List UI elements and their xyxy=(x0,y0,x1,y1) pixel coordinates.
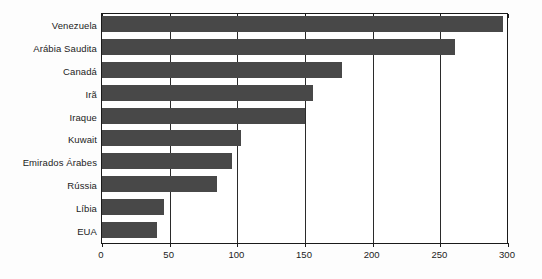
value-axis-labels: 050100150200250300 xyxy=(0,249,542,265)
bar xyxy=(102,222,157,238)
bar xyxy=(102,153,232,169)
category-label: Iraque xyxy=(69,112,97,123)
bar-row xyxy=(102,220,508,243)
bar-row xyxy=(102,83,508,106)
category-label: Canadá xyxy=(63,66,97,77)
category-label-row: Emirados Árabes xyxy=(0,151,97,174)
bar xyxy=(102,108,305,124)
bars-container xyxy=(102,14,508,243)
category-label: Emirados Árabes xyxy=(23,157,97,168)
bar-row xyxy=(102,60,508,83)
value-axis-tick-label: 300 xyxy=(499,249,515,260)
axis-tick-top xyxy=(508,14,509,18)
value-axis-tick-label: 200 xyxy=(364,249,380,260)
axis-tick-bottom xyxy=(305,243,306,247)
category-axis-labels: VenezuelaArábia SauditaCanadáIrãIraqueKu… xyxy=(0,14,97,243)
category-label: Arábia Saudita xyxy=(33,43,97,54)
value-axis-tick-label: 250 xyxy=(431,249,447,260)
category-label: Irã xyxy=(86,89,97,100)
category-label-row: Iraque xyxy=(0,106,97,129)
bar xyxy=(102,62,342,78)
axis-tick-bottom xyxy=(508,243,509,247)
bar xyxy=(102,39,455,55)
axis-tick-bottom xyxy=(440,243,441,247)
axis-tick-bottom xyxy=(237,243,238,247)
bar-row xyxy=(102,197,508,220)
category-label-row: Arábia Saudita xyxy=(0,37,97,60)
bar xyxy=(102,16,503,32)
value-axis-tick-label: 150 xyxy=(296,249,312,260)
category-label-row: Líbia xyxy=(0,197,97,220)
value-axis-tick-label: 100 xyxy=(228,249,244,260)
value-axis-tick-label: 50 xyxy=(163,249,174,260)
category-label-row: Kuwait xyxy=(0,128,97,151)
axis-tick-bottom xyxy=(170,243,171,247)
category-label-row: Irã xyxy=(0,83,97,106)
bar-chart: VenezuelaArábia SauditaCanadáIrãIraqueKu… xyxy=(0,0,542,279)
bar-row xyxy=(102,174,508,197)
category-label-row: Rússia xyxy=(0,174,97,197)
category-label: Rússia xyxy=(67,180,97,191)
category-label-row: Venezuela xyxy=(0,14,97,37)
bar xyxy=(102,199,164,215)
bar xyxy=(102,176,217,192)
bar xyxy=(102,85,313,101)
bar-row xyxy=(102,14,508,37)
bar-row xyxy=(102,128,508,151)
bar-row xyxy=(102,37,508,60)
category-label: EUA xyxy=(77,226,97,237)
bar-row xyxy=(102,151,508,174)
bar xyxy=(102,130,241,146)
bar-row xyxy=(102,106,508,129)
category-label-row: Canadá xyxy=(0,60,97,83)
axis-tick-bottom xyxy=(373,243,374,247)
category-label: Kuwait xyxy=(68,134,97,145)
category-label: Líbia xyxy=(76,203,97,214)
category-label-row: EUA xyxy=(0,220,97,243)
category-label: Venezuela xyxy=(52,20,97,31)
axis-tick-bottom xyxy=(102,243,103,247)
value-axis-tick-label: 0 xyxy=(98,249,103,260)
